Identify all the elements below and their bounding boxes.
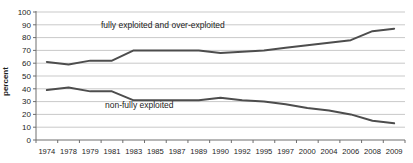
y-axis-label: 40 (22, 85, 31, 94)
series-line-fully-exploited-and-over-exploited (47, 29, 394, 65)
y-axis-label: 100 (18, 8, 32, 17)
chart-canvas: 0102030405060708090100197419781979198119… (0, 0, 413, 163)
x-axis-label: 1997 (277, 147, 294, 156)
x-axis-label: 2009 (386, 147, 403, 156)
x-axis-label: 1978 (60, 147, 77, 156)
x-axis-label: 2004 (321, 147, 338, 156)
x-axis-label: 1987 (169, 147, 186, 156)
y-axis-label: 80 (22, 33, 31, 42)
x-axis-label: 1995 (255, 147, 272, 156)
y-axis-label: 60 (22, 59, 31, 68)
x-axis-label: 1979 (82, 147, 99, 156)
x-axis-label: 1985 (147, 147, 164, 156)
y-axis-label: 70 (22, 46, 31, 55)
y-axis-label: 30 (22, 97, 31, 106)
x-axis-label: 2006 (342, 147, 359, 156)
x-axis-label: 1989 (190, 147, 207, 156)
x-axis-label: 1983 (125, 147, 142, 156)
series-annotation: fully exploited and over-exploited (101, 20, 225, 30)
x-axis-label: 1990 (212, 147, 229, 156)
series-line-non-fully-exploited (47, 88, 394, 124)
x-axis-label: 1981 (104, 147, 121, 156)
y-axis-label: 20 (22, 110, 31, 119)
x-axis-label: 1974 (38, 147, 55, 156)
y-axis-label: 0 (27, 136, 32, 145)
x-axis-label: 2000 (299, 147, 316, 156)
y-axis-label: 10 (22, 123, 31, 132)
series-annotation: non-fully exploited (105, 100, 174, 110)
x-axis-label: 2008 (364, 147, 381, 156)
y-axis-label: 90 (22, 21, 31, 30)
fisheries-exploitation-line-chart: 0102030405060708090100197419781979198119… (0, 0, 413, 163)
y-axis-label: 50 (22, 72, 31, 81)
y-axis-title: percent (1, 67, 10, 96)
x-axis-label: 1992 (234, 147, 251, 156)
